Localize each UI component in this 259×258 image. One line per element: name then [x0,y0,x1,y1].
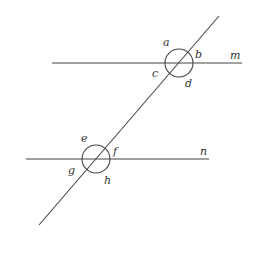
label-line-m: m [230,49,240,62]
angle-label-a: a [163,36,170,49]
angle-label-h: h [104,174,111,187]
angle-label-e: e [81,132,88,145]
angle-label-g: g [68,164,75,177]
angle-label-c: c [152,67,158,80]
angle-label-f: f [112,145,119,158]
transversal-line [39,16,219,225]
diagram-canvas: m n a b c d e f g h [0,0,259,258]
label-line-n: n [200,145,207,158]
angle-label-d: d [185,77,192,90]
angle-label-b: b [195,48,202,61]
